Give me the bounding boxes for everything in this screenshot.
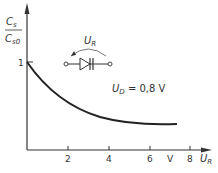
capacitance-voltage-diagram: Cs Cs0 1 2 4 6 V 8 UR UR UD = 0,8 V <box>0 0 218 173</box>
varactor-diode-symbol <box>64 49 112 70</box>
x-tick-label-6: 6 <box>147 154 153 164</box>
diode-triangle-icon <box>80 58 90 70</box>
voltage-arrow-icon <box>71 51 76 56</box>
y-tick-label-1: 1 <box>18 58 24 68</box>
y-label-denominator: Cs0 <box>5 33 21 46</box>
diffusion-voltage-annotation: UD = 0,8 V <box>112 83 166 96</box>
x-tick-label-2: 2 <box>65 154 71 164</box>
terminal-right-icon <box>108 62 112 66</box>
y-label-numerator: Cs <box>6 16 17 29</box>
terminal-left-icon <box>64 62 68 66</box>
x-axis-arrow-icon <box>201 148 212 153</box>
x-tick-label-8: 8 <box>187 154 193 164</box>
x-unit-label: V <box>167 154 174 164</box>
voltage-arc <box>71 49 106 56</box>
x-axis-label: UR <box>200 153 212 166</box>
circuit-voltage-label: UR <box>84 35 96 48</box>
y-axis-arrow-icon <box>25 3 30 14</box>
x-tick-label-4: 4 <box>106 154 112 164</box>
